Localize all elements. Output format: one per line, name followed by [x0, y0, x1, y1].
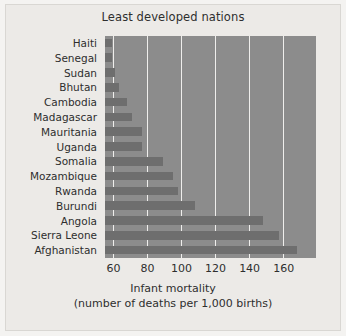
y-axis-label-mauritania: Mauritania	[41, 125, 97, 140]
y-axis-label-madagascar: Madagascar	[33, 110, 97, 125]
bar	[105, 127, 142, 136]
y-axis-label-bhutan: Bhutan	[59, 80, 97, 95]
y-axis-label-mozambique: Mozambique	[30, 169, 97, 184]
y-axis-label-burundi: Burundi	[56, 199, 97, 214]
y-axis-label-afghanistan: Afghanistan	[34, 243, 97, 258]
bar	[105, 216, 263, 225]
bar-row	[105, 243, 316, 258]
x-tick-140: 140	[239, 262, 260, 275]
y-axis-label-somalia: Somalia	[55, 154, 97, 169]
bar-row	[105, 214, 316, 229]
bar	[105, 68, 115, 77]
bar	[105, 39, 112, 48]
bar-row	[105, 199, 316, 214]
x-axis-title-line1: Infant mortality	[0, 281, 346, 296]
bar-row	[105, 36, 316, 51]
x-tick-120: 120	[205, 262, 226, 275]
bar-row	[105, 154, 316, 169]
bar	[105, 98, 127, 107]
x-tick-100: 100	[171, 262, 192, 275]
bar	[105, 142, 142, 151]
bar	[105, 172, 173, 181]
bar-row	[105, 110, 316, 125]
bar-row	[105, 228, 316, 243]
y-axis-category-labels: HaitiSenegalSudanBhutanCambodiaMadagasca…	[0, 36, 101, 258]
x-tick-80: 80	[141, 262, 155, 275]
bar	[105, 231, 279, 240]
bar	[105, 187, 178, 196]
chart-title: Least developed nations	[0, 10, 346, 24]
bar	[105, 157, 163, 166]
bar	[105, 83, 119, 92]
bar-row	[105, 80, 316, 95]
x-axis-title: Infant mortality (number of deaths per 1…	[0, 281, 346, 311]
bar	[105, 53, 112, 62]
bar-row	[105, 125, 316, 140]
bar-row	[105, 95, 316, 110]
bar	[105, 201, 195, 210]
bar-row	[105, 66, 316, 81]
bar-row	[105, 169, 316, 184]
y-axis-label-sierra-leone: Sierra Leone	[31, 228, 97, 243]
x-tick-60: 60	[107, 262, 121, 275]
bar-row	[105, 51, 316, 66]
y-axis-label-angola: Angola	[61, 214, 97, 229]
bar	[105, 246, 297, 255]
bar-row	[105, 140, 316, 155]
x-axis-title-line2: (number of deaths per 1,000 births)	[0, 296, 346, 311]
y-axis-label-sudan: Sudan	[64, 66, 97, 81]
y-axis-label-haiti: Haiti	[73, 36, 97, 51]
plot-area	[105, 36, 316, 258]
y-axis-label-uganda: Uganda	[56, 140, 97, 155]
bar	[105, 113, 132, 122]
x-axis-tick-labels: 6080100120140160	[0, 262, 346, 278]
chart-figure: Least developed nations HaitiSenegalSuda…	[0, 0, 346, 336]
x-tick-160: 160	[273, 262, 294, 275]
y-axis-label-cambodia: Cambodia	[44, 95, 97, 110]
y-axis-label-senegal: Senegal	[55, 51, 97, 66]
bar-row	[105, 184, 316, 199]
y-axis-label-rwanda: Rwanda	[55, 184, 97, 199]
